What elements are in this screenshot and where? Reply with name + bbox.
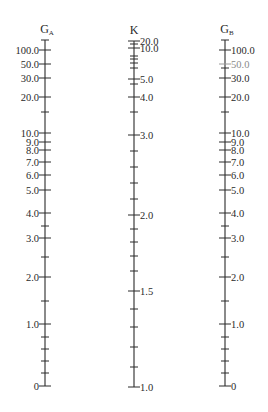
scale-title: K <box>130 23 139 37</box>
tick-label: 0 <box>231 381 236 392</box>
tick-label: 20.0 <box>231 92 249 103</box>
tick-label: 50.0 <box>21 59 39 70</box>
tick-label: 4.0 <box>26 208 39 219</box>
tick-label: 50.0 <box>231 59 249 70</box>
tick-label: 3.0 <box>140 130 153 141</box>
tick-label: 0 <box>34 381 39 392</box>
scale-title-subscript: A <box>49 29 54 37</box>
tick-label: 10.0 <box>140 43 158 54</box>
scale-gb: GB100.050.030.020.010.09.08.07.06.05.04.… <box>219 22 255 392</box>
tick-label: 6.0 <box>26 170 39 181</box>
tick-label: 5.0 <box>26 185 39 196</box>
tick-label: 1.5 <box>140 286 153 297</box>
tick-label: 5.0 <box>231 185 244 196</box>
tick-label: 3.0 <box>26 233 39 244</box>
scale-title: GB <box>220 22 234 37</box>
tick-label: 1.0 <box>140 382 153 393</box>
tick-label: 6.0 <box>231 170 244 181</box>
tick-label: 8.0 <box>231 145 244 156</box>
scale-ga: GA100.050.030.020.010.09.08.07.06.05.04.… <box>15 22 53 392</box>
tick-label: 100.0 <box>231 45 255 56</box>
tick-label: 1.0 <box>26 319 39 330</box>
tick-label: 1.0 <box>231 319 244 330</box>
tick-label: 2.0 <box>140 210 153 221</box>
tick-label: 5.0 <box>140 74 153 85</box>
tick-label: 20.0 <box>21 92 39 103</box>
tick-label: 7.0 <box>26 157 39 168</box>
scale-title: GA <box>40 22 54 37</box>
tick-label: 4.0 <box>140 92 153 103</box>
tick-label: 100.0 <box>15 45 39 56</box>
tick-label: 4.0 <box>231 208 244 219</box>
tick-label: 30.0 <box>231 73 249 84</box>
scale-k: K20.010.05.04.03.02.01.51.0 <box>128 23 158 393</box>
tick-label: 30.0 <box>21 73 39 84</box>
tick-label: 3.0 <box>231 233 244 244</box>
tick-label: 8.0 <box>26 145 39 156</box>
scale-title-subscript: B <box>229 29 234 37</box>
nomograph: GA100.050.030.020.010.09.08.07.06.05.04.… <box>0 0 268 412</box>
scales: GA100.050.030.020.010.09.08.07.06.05.04.… <box>15 22 254 393</box>
tick-label: 7.0 <box>231 157 244 168</box>
tick-label: 2.0 <box>231 272 244 283</box>
tick-label: 2.0 <box>26 272 39 283</box>
